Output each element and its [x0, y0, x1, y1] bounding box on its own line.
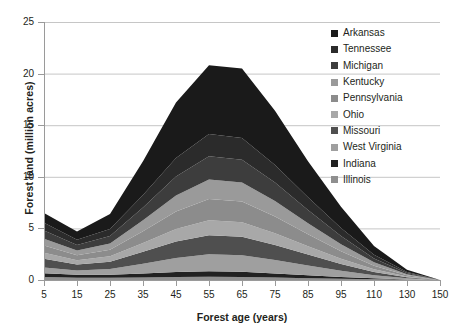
- y-axis-tick-label: 10: [4, 171, 34, 182]
- legend-item-pennsylvania[interactable]: Pennsylvania: [331, 90, 402, 106]
- legend-item-label: West Virginia: [343, 142, 402, 152]
- y-axis-tick: [39, 228, 40, 229]
- x-axis-tick: [242, 281, 243, 286]
- x-axis-title: Forest age (years): [44, 311, 440, 323]
- legend-item-label: Indiana: [343, 159, 376, 169]
- y-axis-tick: [39, 74, 40, 75]
- x-axis-tick: [374, 281, 375, 286]
- legend-item-illinois[interactable]: Illinois: [331, 172, 402, 188]
- legend-swatch-icon: [331, 144, 338, 151]
- legend-item-indiana[interactable]: Indiana: [331, 155, 402, 171]
- legend-item-label: Kentucky: [343, 77, 384, 87]
- legend-item-tennessee[interactable]: Tennessee: [331, 41, 402, 57]
- x-axis-tick: [110, 281, 111, 286]
- x-axis-tick: [77, 281, 78, 286]
- y-axis-tick: [39, 22, 40, 23]
- x-axis-tick: [176, 281, 177, 286]
- x-axis-tick: [44, 281, 45, 286]
- legend-swatch-icon: [331, 111, 338, 118]
- legend-item-missouri[interactable]: Missouri: [331, 123, 402, 139]
- x-axis-tick: [143, 281, 144, 286]
- y-axis-tick-label: 5: [4, 222, 34, 233]
- legend-item-label: Michigan: [343, 61, 383, 71]
- x-axis-tick: [308, 281, 309, 286]
- y-axis-tick-label: 20: [4, 68, 34, 79]
- legend-item-michigan[interactable]: Michigan: [331, 58, 402, 74]
- legend-swatch-icon: [331, 127, 338, 134]
- y-axis-line: [44, 22, 45, 281]
- legend-item-arkansas[interactable]: Arkansas: [331, 25, 402, 41]
- legend-swatch-icon: [331, 62, 338, 69]
- legend-item-label: Tennessee: [343, 44, 391, 54]
- y-axis-tick-label: 0: [4, 274, 34, 285]
- legend-item-west-virginia[interactable]: West Virginia: [331, 139, 402, 155]
- y-axis-tick: [39, 125, 40, 126]
- legend-item-ohio[interactable]: Ohio: [331, 106, 402, 122]
- y-axis-tick-label: 25: [4, 16, 34, 27]
- legend-item-label: Pennsylvania: [343, 93, 402, 103]
- x-axis-tick: [341, 281, 342, 286]
- x-axis-tick-label: 150: [420, 289, 455, 300]
- legend-swatch-icon: [331, 46, 338, 53]
- x-axis-tick: [275, 281, 276, 286]
- legend-item-label: Arkansas: [343, 28, 385, 38]
- stacked-area-chart: Forest land (million acres) 0510152025 5…: [0, 0, 455, 335]
- legend-swatch-icon: [331, 176, 338, 183]
- legend-swatch-icon: [331, 95, 338, 102]
- legend-swatch-icon: [331, 160, 338, 167]
- x-axis-tick: [407, 281, 408, 286]
- x-axis-tick: [209, 281, 210, 286]
- y-axis-tick: [39, 177, 40, 178]
- x-axis-tick: [440, 281, 441, 286]
- y-axis-tick-label: 15: [4, 119, 34, 130]
- legend-item-kentucky[interactable]: Kentucky: [331, 74, 402, 90]
- chart-legend: ArkansasTennesseeMichiganKentuckyPennsyl…: [331, 25, 402, 188]
- legend-item-label: Missouri: [343, 126, 380, 136]
- legend-swatch-icon: [331, 30, 338, 37]
- legend-swatch-icon: [331, 79, 338, 86]
- legend-item-label: Illinois: [343, 175, 371, 185]
- legend-item-label: Ohio: [343, 110, 364, 120]
- y-axis-tick: [39, 280, 40, 281]
